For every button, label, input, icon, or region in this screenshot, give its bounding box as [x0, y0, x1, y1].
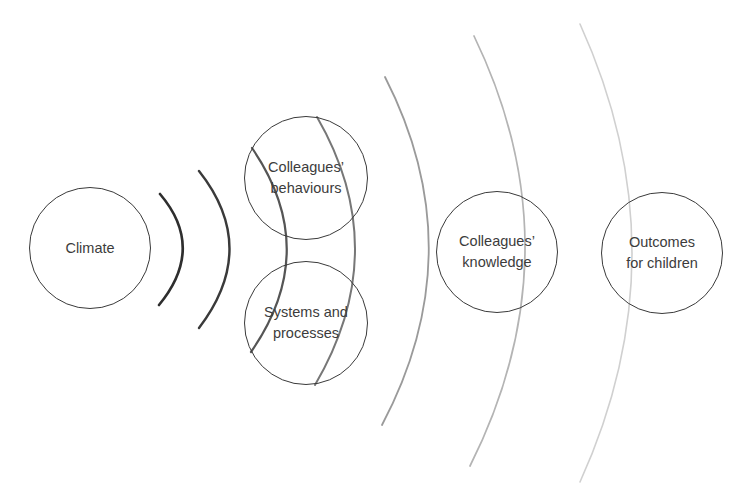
colleagues-behaviours-label: Colleagues’ behaviours — [268, 157, 344, 199]
climate-node: Climate — [29, 187, 151, 309]
colleagues-knowledge-label: Colleagues’ knowledge — [459, 231, 535, 273]
systems-and-processes-label: Systems and processes — [264, 302, 348, 344]
colleagues-behaviours-node: Colleagues’ behaviours — [244, 116, 368, 240]
outcomes-for-children-node: Outcomes for children — [601, 192, 723, 314]
ripple-arc — [382, 77, 429, 425]
colleagues-knowledge-node: Colleagues’ knowledge — [436, 191, 558, 313]
outcomes-for-children-label: Outcomes for children — [626, 232, 698, 274]
ripple-arc — [159, 194, 183, 305]
ripple-arc — [199, 171, 230, 328]
systems-and-processes-node: Systems and processes — [244, 261, 368, 385]
influence-diagram: Climate Colleagues’ behaviours Systems a… — [0, 0, 755, 498]
climate-label: Climate — [65, 238, 114, 259]
